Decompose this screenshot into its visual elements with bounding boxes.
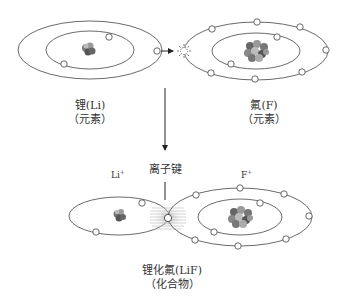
electron — [93, 229, 99, 235]
lithium-ion-label: Li+ — [111, 168, 125, 180]
electron — [61, 61, 67, 67]
fluorine-ion-label: F+ — [241, 168, 252, 180]
lithium-name: 锂(Li) — [55, 99, 125, 113]
electron — [257, 200, 263, 206]
ionic-bond-diagram — [0, 0, 345, 301]
fluorine-atom — [177, 19, 329, 82]
electron — [228, 61, 234, 67]
lithium-ion-nucleus — [114, 209, 127, 222]
fluorine-nucleus — [244, 40, 269, 62]
electron — [297, 24, 303, 30]
compound-type: （化合物） — [130, 278, 214, 292]
compound-label: 锂化氟(LiF) （化合物） — [130, 264, 214, 292]
fluorine-type: （元素） — [229, 113, 299, 127]
electron — [254, 19, 260, 25]
lithium-atom — [18, 21, 162, 79]
electron — [299, 69, 305, 75]
electron — [274, 34, 280, 40]
compound-name: 锂化氟(LiF) — [130, 264, 214, 278]
fluorine-ion-nucleus — [228, 206, 253, 228]
electron — [237, 185, 243, 191]
electron — [252, 76, 258, 82]
electron — [193, 192, 199, 198]
lithium-type: （元素） — [55, 113, 125, 127]
electron — [154, 48, 160, 54]
lithium-label: 锂(Li) （元素） — [55, 99, 125, 127]
ionic-bond-label: 离子键 — [140, 163, 190, 177]
electron — [139, 200, 145, 206]
fluorine-ion — [164, 185, 312, 249]
electron — [208, 70, 214, 76]
fluorine-name: 氟(F) — [229, 99, 299, 113]
fluorine-label: 氟(F) （元素） — [229, 99, 299, 127]
electron — [306, 213, 312, 219]
electron — [209, 26, 215, 32]
electron — [211, 229, 217, 235]
electron — [283, 236, 289, 242]
electron — [164, 214, 171, 221]
lithium-nucleus — [82, 43, 96, 56]
electron-vacancy-icon — [177, 44, 191, 58]
electron — [235, 243, 241, 249]
electron — [281, 191, 287, 197]
electron — [192, 237, 198, 243]
electron — [106, 34, 112, 40]
electron — [323, 47, 329, 53]
